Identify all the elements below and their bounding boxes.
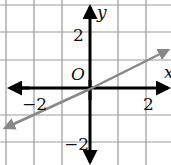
x-tick-2: 2 <box>143 94 154 114</box>
coordinate-graph: y x O −2 2 2 −2 <box>0 0 171 165</box>
graph-line <box>90 50 168 89</box>
y-tick-neg2: −2 <box>64 134 89 154</box>
origin-label: O <box>71 64 85 84</box>
y-axis-label: y <box>96 2 107 22</box>
y-tick-2: 2 <box>73 25 84 45</box>
x-axis-label: x <box>164 62 171 82</box>
x-tick-neg2: −2 <box>22 94 47 114</box>
